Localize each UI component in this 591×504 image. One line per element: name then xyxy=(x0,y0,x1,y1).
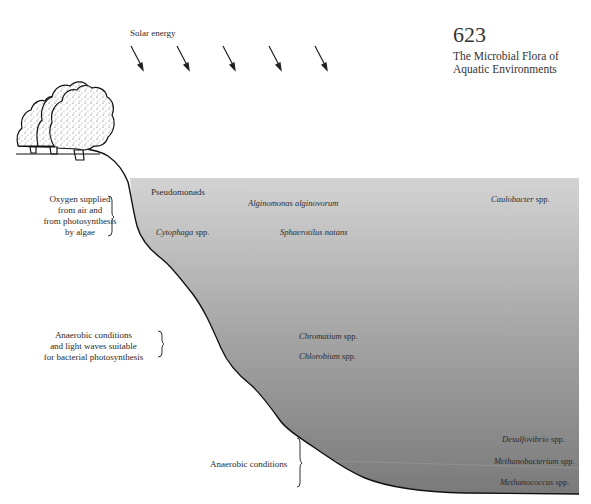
condition-line: from air and xyxy=(30,205,130,216)
brace-light xyxy=(158,331,164,357)
organism-methanobacterium: Methanobacterium spp. xyxy=(494,456,575,466)
condition-line: for bacterial photosynthesis xyxy=(30,352,157,363)
organism-chlorobium: Chlorobium spp. xyxy=(299,351,356,361)
condition-line: Anaerobic conditions xyxy=(210,459,287,470)
page-title-line-1: The Microbial Flora of xyxy=(453,50,591,63)
condition-oxygen-label: Oxygen supplied from air and from photos… xyxy=(30,194,130,238)
condition-line: and light waves suitable xyxy=(30,341,157,352)
condition-light-label: Anaerobic conditions and light waves sui… xyxy=(30,330,157,363)
page-title-line-2: Aquatic Environments xyxy=(453,63,591,76)
spp: spp. xyxy=(344,331,358,341)
page-title: The Microbial Flora of Aquatic Environme… xyxy=(453,50,591,76)
spp: spp. xyxy=(551,434,565,444)
organism-desulfovibrio: Desulfovibrio spp. xyxy=(502,434,565,444)
spp: spp. xyxy=(342,351,356,361)
condition-line: by algae xyxy=(30,227,130,238)
condition-line: Oxygen supplied xyxy=(30,194,130,205)
genus: Cytophaga xyxy=(156,227,193,237)
condition-line: Anaerobic conditions xyxy=(30,330,157,341)
trees-icon xyxy=(16,82,114,160)
sun-ray-arrow-icon xyxy=(131,46,143,70)
organism-chromatium: Chromatium spp. xyxy=(299,331,358,341)
organism-cytophaga: Cytophaga spp. xyxy=(156,227,209,237)
spp: spp. xyxy=(536,194,550,204)
condition-anaerobic-label: Anaerobic conditions xyxy=(210,459,287,470)
sun-ray-arrow-icon xyxy=(315,46,327,70)
organism-pseudomonads: Pseudomonads xyxy=(151,187,205,197)
sun-ray-arrow-icon xyxy=(177,46,189,70)
page-number: 623 xyxy=(453,22,486,48)
genus: Chlorobium xyxy=(299,351,340,361)
solar-energy-label: Solar energy xyxy=(130,28,176,38)
genus: Desulfovibrio xyxy=(502,434,549,444)
solar-arrows xyxy=(131,46,327,70)
genus: Methanobacterium xyxy=(494,456,559,466)
spp: spp. xyxy=(195,227,209,237)
spp: spp. xyxy=(561,456,575,466)
spp: spp. xyxy=(555,477,569,487)
organism-methanococcus: Methanococcus spp. xyxy=(500,477,569,487)
sun-ray-arrow-icon xyxy=(223,46,235,70)
organism-alginomonas: Alginomonas alginovorum xyxy=(248,198,338,208)
genus: Methanococcus xyxy=(500,477,553,487)
organism-caulobacter: Caulobacter spp. xyxy=(491,194,550,204)
genus: Caulobacter xyxy=(491,194,534,204)
sun-ray-arrow-icon xyxy=(269,46,281,70)
genus: Chromatium xyxy=(299,331,342,341)
organism-sphaerotilus: Sphaerotilus natans xyxy=(280,227,347,237)
condition-line: from photosynthesis xyxy=(30,216,130,227)
brace-anaerobic xyxy=(297,438,302,487)
